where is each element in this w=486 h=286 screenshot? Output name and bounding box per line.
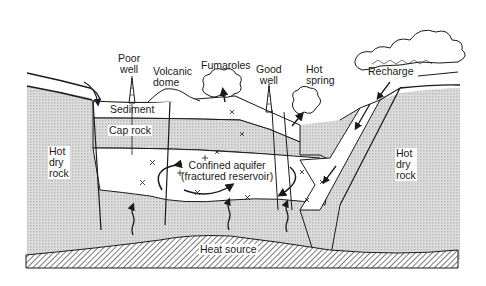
cap-rock-label: Cap rock: [108, 125, 152, 136]
heat-source-label: Heat source: [199, 244, 258, 255]
poor-well-icon: [129, 76, 135, 103]
good-well-icon: [266, 84, 272, 112]
hot-spring-label: Hot spring: [306, 64, 335, 86]
confined-aquifer-label: Confined aquifer (fractured reservoir): [181, 160, 273, 182]
hot-dry-rock-left-label: Hot dry rock: [48, 146, 70, 179]
good-well-label: Good well: [256, 64, 282, 86]
volcanic-dome: [148, 89, 200, 102]
hot-dry-rock-right-label: Hot dry rock: [395, 148, 417, 181]
hot-spring-cloud-icon: [292, 86, 320, 114]
fumarole-cloud-icon: [203, 69, 242, 98]
volcanic-dome-label: Volcanic dome: [153, 66, 192, 88]
poor-well-label: Poor well: [118, 53, 140, 75]
fumaroles-label: Fumaroles: [201, 60, 251, 71]
sediment-label: Sediment: [110, 104, 154, 115]
recharge-label: Recharge: [368, 66, 414, 77]
